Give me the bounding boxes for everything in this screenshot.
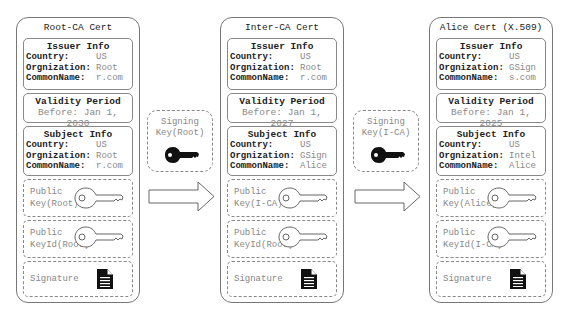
issuer-org-row: Orgnization:GSign [437, 63, 545, 74]
subject-cn-row: CommonName:r.com [24, 161, 132, 172]
field-value: US [509, 140, 520, 151]
right-arrow-icon [148, 181, 216, 212]
signature-label: Signature [234, 274, 283, 284]
field-value: r.com [96, 73, 123, 84]
key-outline-icon [487, 225, 537, 249]
key-outline-icon [278, 225, 328, 249]
field-label: Country: [439, 52, 509, 63]
issuer-cn-row: CommonName:s.com [437, 73, 545, 84]
field-value: US [96, 140, 107, 151]
subject-info-box: Subject Info Country:US Orgnization:GSig… [227, 126, 337, 176]
field-label: Country: [230, 140, 300, 151]
certificate-3: Alice Cert (X.509) Issuer Info Country:U… [429, 17, 553, 303]
key-solid-icon [371, 147, 405, 163]
key-solid-icon [165, 147, 199, 163]
validity-period-box: Validity Period Before: Jan 1, 2025 [436, 93, 546, 123]
document-icon [509, 268, 527, 290]
issuer-info-box: Issuer Info Country:US Orgnization:Root … [227, 38, 337, 90]
issuer-info-title: Issuer Info [437, 41, 545, 52]
subject-org-row: Orgnization:Root [24, 151, 132, 162]
right-arrow-icon [354, 181, 422, 212]
issuer-country-row: Country:US [24, 52, 132, 63]
field-value: Intel [509, 151, 536, 162]
field-label: CommonName: [26, 73, 96, 84]
field-value: US [96, 52, 107, 63]
field-label: Orgnization: [26, 63, 96, 74]
field-label: Orgnization: [230, 151, 300, 162]
subject-country-row: Country:US [24, 140, 132, 151]
field-label: Country: [439, 140, 509, 151]
public-key-label: PublicKey(I-CA) [234, 186, 283, 210]
signing-key-label: SigningKey(I-CA) [354, 117, 418, 139]
signing-key-box-1: SigningKey(Root) [147, 110, 213, 172]
issuer-info-box: Issuer Info Country:US Orgnization:Root … [23, 38, 133, 90]
signature-label: Signature [30, 274, 79, 284]
field-value: GSign [300, 151, 327, 162]
subject-info-box: Subject Info Country:US Orgnization:Root… [23, 126, 133, 176]
signature-box: Signature [227, 261, 337, 297]
cert-title: Inter-CA Cert [221, 22, 343, 33]
validity-period-box: Validity Period Before: Jan 1, 2030 [23, 93, 133, 123]
field-value: Root [300, 63, 322, 74]
field-value: r.com [96, 161, 123, 172]
field-value: Root [96, 63, 118, 74]
cert-title: Alice Cert (X.509) [430, 22, 552, 33]
key-outline-icon [74, 225, 124, 249]
subject-org-row: Orgnization:GSign [228, 151, 336, 162]
subject-country-row: Country:US [437, 140, 545, 151]
signing-key-label: SigningKey(Root) [148, 117, 212, 139]
key-id-box: PublicKeyId(Root) [23, 220, 133, 258]
field-value: Alice [509, 161, 536, 172]
signing-key-box-2: SigningKey(I-CA) [353, 110, 419, 172]
field-value: US [509, 52, 520, 63]
field-value: Alice [300, 161, 327, 172]
key-id-box: PublicKeyId(I-CA) [436, 220, 546, 258]
document-icon [96, 268, 114, 290]
field-label: Orgnization: [230, 63, 300, 74]
validity-title: Validity Period [228, 96, 336, 107]
field-label: CommonName: [439, 73, 509, 84]
validity-title: Validity Period [24, 96, 132, 107]
field-label: CommonName: [230, 161, 300, 172]
subject-info-title: Subject Info [437, 129, 545, 140]
field-label: Country: [26, 140, 96, 151]
issuer-org-row: Orgnization:Root [228, 63, 336, 74]
subject-cn-row: CommonName:Alice [228, 161, 336, 172]
field-label: Country: [26, 52, 96, 63]
field-label: CommonName: [230, 73, 300, 84]
subject-country-row: Country:US [228, 140, 336, 151]
issuer-info-title: Issuer Info [228, 41, 336, 52]
public-key-box: PublicKey(Alice) [436, 179, 546, 217]
field-value: r.com [300, 73, 327, 84]
signature-box: Signature [436, 261, 546, 297]
issuer-org-row: Orgnization:Root [24, 63, 132, 74]
issuer-info-title: Issuer Info [24, 41, 132, 52]
field-value: US [300, 52, 311, 63]
field-value: GSign [509, 63, 536, 74]
field-label: CommonName: [26, 161, 96, 172]
field-label: Orgnization: [26, 151, 96, 162]
key-outline-icon [278, 186, 328, 210]
signature-box: Signature [23, 261, 133, 297]
field-label: CommonName: [439, 161, 509, 172]
certificate-1: Root-CA Cert Issuer Info Country:US Orgn… [16, 17, 140, 303]
field-label: Orgnization: [439, 63, 509, 74]
public-key-label: PublicKey(Root) [30, 186, 79, 210]
issuer-info-box: Issuer Info Country:US Orgnization:GSign… [436, 38, 546, 90]
validity-title: Validity Period [437, 96, 545, 107]
subject-info-title: Subject Info [228, 129, 336, 140]
signature-label: Signature [443, 274, 492, 284]
subject-cn-row: CommonName:Alice [437, 161, 545, 172]
key-outline-icon [74, 186, 124, 210]
public-key-box: PublicKey(Root) [23, 179, 133, 217]
subject-org-row: Orgnization:Intel [437, 151, 545, 162]
key-outline-icon [487, 186, 537, 210]
subject-info-box: Subject Info Country:US Orgnization:Inte… [436, 126, 546, 176]
issuer-cn-row: CommonName:r.com [24, 73, 132, 84]
issuer-country-row: Country:US [228, 52, 336, 63]
field-label: Orgnization: [439, 151, 509, 162]
public-key-box: PublicKey(I-CA) [227, 179, 337, 217]
field-value: s.com [509, 73, 536, 84]
field-value: US [300, 140, 311, 151]
issuer-cn-row: CommonName:r.com [228, 73, 336, 84]
